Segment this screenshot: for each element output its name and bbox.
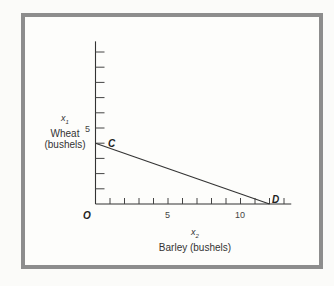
axes: [96, 41, 292, 204]
y-axis-var-sub: 1: [66, 119, 69, 125]
y-axis-label-line2: (bushels): [42, 139, 88, 150]
x-tick-label-10: 10: [235, 210, 245, 221]
origin-label: O: [83, 210, 91, 221]
x-axis-label: x2 Barley (bushels): [150, 227, 240, 253]
x-axis-var-sub: 2: [196, 233, 199, 239]
series-line-cd: [96, 143, 270, 204]
y-axis-label: x1 Wheat (bushels): [42, 113, 88, 150]
axis-ticks: [96, 52, 285, 204]
x-axis-label-line: Barley (bushels): [150, 242, 240, 253]
point-label-c: C: [108, 138, 115, 149]
point-label-d: D: [272, 194, 279, 205]
series-segment: [96, 143, 270, 204]
x-tick-label-5: 5: [165, 210, 170, 221]
y-tick-label-5: 5: [85, 124, 90, 135]
y-axis-label-line1: Wheat: [42, 128, 88, 139]
